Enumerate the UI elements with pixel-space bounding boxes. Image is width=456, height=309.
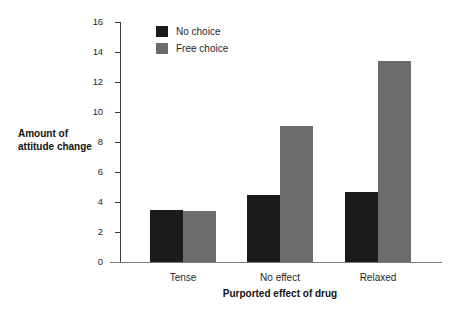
- bar-relaxed-free-choice: [378, 61, 411, 262]
- bar-no-effect-free-choice: [280, 126, 313, 263]
- legend-item-label: Free choice: [176, 43, 228, 54]
- bar-tense-no-choice: [150, 210, 183, 263]
- legend-item-free-choice: Free choice: [156, 41, 228, 56]
- legend-swatch-icon: [156, 43, 168, 54]
- x-axis-title: Purported effect of drug: [120, 288, 440, 299]
- bar-relaxed-no-choice: [345, 192, 378, 263]
- bar-chart-figure: 0246810121416 TenseNo effectRelaxed Purp…: [0, 0, 456, 309]
- bar-no-effect-no-choice: [247, 195, 280, 263]
- bar-tense-free-choice: [183, 211, 216, 262]
- x-axis-tick-label: Tense: [128, 272, 238, 283]
- legend-item-no-choice: No choice: [156, 24, 228, 39]
- x-axis-tick-label: Relaxed: [323, 272, 433, 283]
- x-axis-tick-label: No effect: [225, 272, 335, 283]
- y-axis-title-line-2: attitude change: [18, 141, 114, 154]
- legend-item-label: No choice: [176, 26, 220, 37]
- y-axis-title: Amount of attitude change: [18, 128, 114, 153]
- legend-swatch-icon: [156, 26, 168, 37]
- legend: No choiceFree choice: [156, 24, 228, 58]
- y-axis-title-line-1: Amount of: [18, 128, 114, 141]
